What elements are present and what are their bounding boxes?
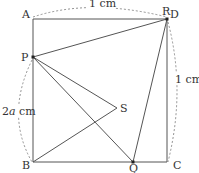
label-b: B (22, 159, 30, 172)
segment-pq (33, 57, 133, 162)
left-dimension-label: 2a cm (2, 105, 36, 118)
segment-pr (33, 19, 167, 57)
right-dimension-label: 1 cm (175, 73, 199, 86)
label-s: S (120, 102, 128, 115)
right-dimension-arc (168, 22, 177, 162)
label-p: P (21, 51, 29, 64)
segment-bs (33, 108, 117, 162)
label-q: Q (129, 162, 138, 173)
square-abcd (33, 19, 167, 162)
geometry-diagram: A R D P S B Q C 1 cm 1 cm 2a cm (0, 0, 199, 173)
point-p-marker (32, 56, 35, 59)
label-d: D (170, 8, 179, 21)
segment-ps (33, 57, 117, 108)
label-c: C (173, 159, 181, 172)
top-dimension-label: 1 cm (89, 0, 117, 10)
segment-qr (133, 19, 167, 162)
label-a: A (21, 8, 31, 21)
